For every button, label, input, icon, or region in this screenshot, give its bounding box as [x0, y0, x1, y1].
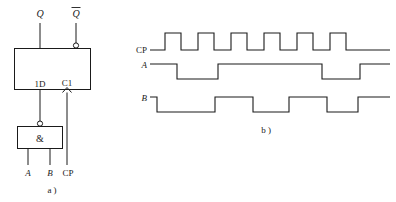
- waveform-trace-b: [150, 97, 390, 112]
- waveform-label-cp: CP: [136, 45, 147, 55]
- panel-a-caption: a ): [47, 185, 56, 195]
- figure-canvas: Q Q 1D C1 & A: [0, 0, 396, 202]
- waveform-label-b: B: [142, 93, 148, 103]
- panel-b-timing: CP A B b ): [136, 33, 390, 135]
- figure-root: Q Q 1D C1 & A: [0, 0, 396, 202]
- waveform-trace-a: [150, 64, 390, 79]
- input-label-a: A: [24, 168, 31, 178]
- flipflop-data-input-label: 1D: [35, 79, 47, 89]
- output-label-qbar: Q: [72, 8, 80, 19]
- panel-a-circuit: Q Q 1D C1 & A: [15, 8, 91, 196]
- panel-b-caption: b ): [261, 125, 271, 135]
- output-label-q: Q: [36, 8, 44, 19]
- waveform-trace-cp: [150, 33, 390, 50]
- flipflop-clock-input-label: C1: [62, 78, 73, 88]
- nand-output-bubble-icon: [37, 121, 42, 126]
- flipflop-body: [15, 49, 91, 90]
- input-label-b: B: [47, 168, 53, 178]
- input-label-cp: CP: [62, 168, 73, 178]
- and-gate-symbol: &: [36, 133, 44, 144]
- qbar-inversion-bubble-icon: [73, 43, 78, 48]
- waveform-label-a: A: [141, 60, 148, 70]
